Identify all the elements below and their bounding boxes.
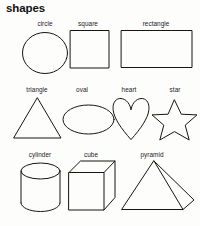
star-shape [151,99,198,141]
cylinder-shape [20,162,61,213]
shapes-illustration-page: shapes circle square rectangle triangle … [0,0,200,226]
label-star: star [157,86,193,94]
label-cylinder: cylinder [16,151,64,159]
label-rectangle: rectangle [126,20,186,28]
label-triangle: triangle [14,86,60,94]
cube-shape [68,160,116,212]
label-square: square [63,20,113,28]
rectangle-shape [121,30,193,69]
label-circle: circle [22,20,68,28]
pyramid-shape [121,160,195,213]
heart-shape [112,97,150,141]
label-oval: oval [62,86,102,94]
page-title: shapes [6,1,45,15]
oval-shape [62,104,115,135]
label-pyramid: pyramid [128,151,176,159]
label-cube: cube [69,151,113,159]
square-shape [70,30,110,70]
triangle-shape [13,97,62,139]
label-heart: heart [110,86,148,94]
circle-shape [21,31,69,75]
